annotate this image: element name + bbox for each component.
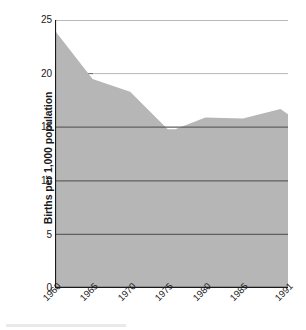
plot-svg: [55, 20, 288, 288]
plot-area: [55, 20, 288, 288]
y-tick-label-5: 5: [30, 230, 52, 240]
caption-edge-sliver: [6, 324, 126, 327]
area-series-births: [55, 31, 288, 288]
y-tick-label-25: 25: [30, 15, 52, 25]
y-tick-label-15: 15: [30, 122, 52, 132]
y-tick-label-20: 20: [30, 69, 52, 79]
y-tick-label-10: 10: [30, 176, 52, 186]
birth-rate-area-chart: Births per 1,000 population 25 20 15 10 …: [0, 0, 306, 330]
